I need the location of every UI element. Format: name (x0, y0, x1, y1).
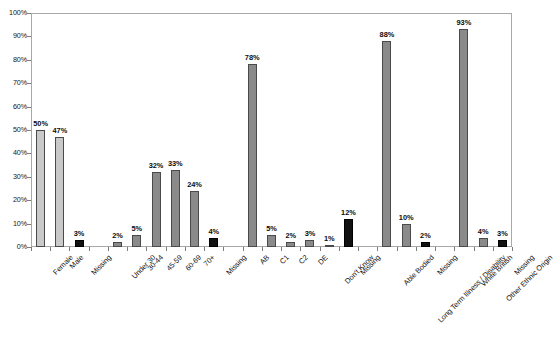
x-tick-label: White British (479, 253, 514, 288)
x-tick-mark (320, 247, 321, 251)
bar (479, 238, 488, 247)
bar-value-label: 47% (46, 127, 74, 135)
x-tick-label: Under 30 (129, 253, 157, 281)
bar (75, 240, 84, 247)
bar-value-label: 24% (181, 181, 209, 189)
x-tick-mark (89, 247, 90, 251)
y-tick-label: 80% (13, 56, 27, 64)
x-tick-mark (512, 247, 513, 251)
bar-value-label: 5% (123, 225, 151, 233)
bar-value-label: 3% (488, 230, 516, 238)
bar-value-label: 10% (392, 214, 420, 222)
x-tick-mark (339, 247, 340, 251)
x-tick-label: Able Bodied (401, 253, 435, 287)
bar (344, 219, 353, 247)
x-tick-mark (166, 247, 167, 251)
y-tick-label: 30% (13, 173, 27, 181)
bar (248, 64, 257, 247)
bar (113, 242, 122, 247)
y-tick-label: 10% (13, 220, 27, 228)
bar (459, 29, 468, 247)
bar-value-label: 4% (200, 228, 228, 236)
bar (190, 191, 199, 247)
y-tick-label: 100% (9, 9, 27, 17)
x-tick-label: 60-69 (184, 253, 204, 273)
x-tick-mark (435, 247, 436, 251)
bar (498, 240, 507, 247)
x-tick-mark (397, 247, 398, 251)
x-tick-label: 30-44 (145, 253, 165, 273)
bar-value-label: 12% (334, 209, 362, 217)
bar-value-label: 2% (104, 232, 132, 240)
x-tick-label: Missing (513, 253, 537, 277)
x-tick-mark (358, 247, 359, 251)
y-tick-label: 70% (13, 79, 27, 87)
x-tick-mark (127, 247, 128, 251)
bar (55, 137, 64, 247)
bar (421, 242, 430, 247)
x-tick-mark (108, 247, 109, 251)
bar (267, 235, 276, 247)
x-tick-label: 45-59 (165, 253, 185, 273)
x-tick-label: Missing (359, 253, 383, 277)
y-tick-label: 90% (13, 32, 27, 40)
bar (305, 240, 314, 247)
y-tick-label: 40% (13, 149, 27, 157)
x-tick-label: C2 (296, 253, 309, 266)
x-tick-label: Other Ethnic Origin (504, 253, 554, 303)
bar (286, 242, 295, 247)
x-tick-mark (262, 247, 263, 251)
x-tick-label: 70+ (201, 253, 216, 268)
bar-value-label: 78% (238, 54, 266, 62)
bar (132, 235, 141, 247)
bar (36, 130, 45, 247)
y-tick-label: 60% (13, 103, 27, 111)
x-tick-mark (493, 247, 494, 251)
x-tick-mark (377, 247, 378, 251)
x-tick-label: Male (67, 253, 85, 271)
y-axis: 0%10%20%30%40%50%60%70%80%90%100% (0, 0, 31, 260)
bar (382, 41, 391, 247)
x-tick-mark (300, 247, 301, 251)
x-tick-label: Missing (224, 253, 248, 277)
x-tick-mark (243, 247, 244, 251)
x-tick-mark (474, 247, 475, 251)
x-tick-label: Long Term Illness / Disability (436, 253, 507, 324)
x-tick-mark (146, 247, 147, 251)
x-tick-mark (69, 247, 70, 251)
bar-value-label: 93% (450, 19, 478, 27)
x-tick-mark (281, 247, 282, 251)
bar (209, 238, 218, 247)
x-tick-mark (416, 247, 417, 251)
y-tick-label: 20% (13, 196, 27, 204)
x-tick-mark (204, 247, 205, 251)
x-tick-label: Missing (89, 253, 113, 277)
x-tick-mark (223, 247, 224, 251)
bar-value-label: 88% (373, 31, 401, 39)
x-tick-label: Don't Know (343, 253, 376, 286)
x-tick-label: AB (258, 253, 271, 266)
bar (402, 224, 411, 247)
bar (152, 172, 161, 247)
x-tick-mark (31, 247, 32, 251)
bars-layer (31, 13, 512, 247)
x-tick-mark (50, 247, 51, 251)
x-tick-label: Missing (436, 253, 460, 277)
y-tick-label: 0% (17, 243, 27, 251)
x-tick-mark (185, 247, 186, 251)
x-tick-label: C1 (277, 253, 290, 266)
bar-value-label: 3% (65, 230, 93, 238)
x-tick-mark (454, 247, 455, 251)
bar-value-label: 1% (315, 235, 343, 243)
x-tick-label: Female (51, 253, 75, 277)
bar-value-label: 2% (411, 232, 439, 240)
x-tick-label: DE (316, 253, 330, 267)
bar-value-label: 33% (161, 160, 189, 168)
y-tick-label: 50% (13, 126, 27, 134)
bar (325, 245, 334, 247)
bar (171, 170, 180, 247)
